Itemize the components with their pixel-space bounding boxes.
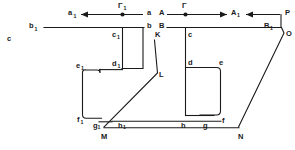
label-a1-subscript: 1 bbox=[74, 13, 77, 19]
label-M: M bbox=[101, 132, 107, 141]
label-gamma1: Γ bbox=[118, 1, 123, 10]
label-a1: a bbox=[68, 8, 73, 17]
label-g: g bbox=[203, 121, 208, 130]
label-L: L bbox=[159, 70, 164, 79]
label-h: h bbox=[181, 121, 186, 130]
gamma-point bbox=[183, 12, 187, 16]
label-b: b bbox=[147, 21, 152, 30]
label-d1: d bbox=[112, 59, 117, 68]
diagram-canvas: A1 arrow line --> bbox=[0, 0, 295, 150]
shape-right-rounded bbox=[186, 68, 221, 116]
label-d1-subscript: 1 bbox=[118, 63, 121, 69]
diagram-svg: A1 arrow line --> bbox=[0, 0, 295, 150]
label-h1-subscript: 1 bbox=[123, 124, 126, 130]
label-f1-subscript: 1 bbox=[81, 119, 84, 125]
label-c: c bbox=[188, 30, 192, 39]
label-e1-subscript: 1 bbox=[81, 65, 84, 71]
line-d1-horizontal bbox=[122, 28, 143, 69]
label-e: e bbox=[219, 58, 223, 67]
gamma1-point bbox=[120, 12, 124, 16]
label-gamma1-subscript: 1 bbox=[124, 5, 127, 11]
label-P: P bbox=[285, 8, 290, 17]
label-N: N bbox=[238, 132, 243, 141]
label-c-free: c bbox=[7, 34, 11, 43]
label-K: K bbox=[155, 30, 161, 39]
shape-left-rounded bbox=[83, 69, 102, 118]
label-g1-subscript: 1 bbox=[98, 124, 101, 130]
arrow-to-a1 bbox=[81, 12, 143, 18]
label-O: O bbox=[286, 29, 292, 38]
label-gamma: Γ bbox=[182, 1, 187, 10]
line-O-to-N bbox=[239, 28, 285, 128]
line-K-L-M bbox=[104, 40, 158, 127]
label-a: a bbox=[147, 8, 152, 17]
label-b1: b bbox=[29, 21, 34, 30]
label-A: A bbox=[159, 8, 165, 17]
label-B1-subscript: 1 bbox=[270, 25, 273, 31]
arrow-to-A1 bbox=[167, 12, 227, 18]
label-c1: c bbox=[112, 30, 116, 39]
label-e1: e bbox=[76, 61, 80, 70]
label-f: f bbox=[222, 116, 225, 125]
label-B: B bbox=[159, 21, 165, 30]
label-b1-subscript: 1 bbox=[35, 26, 38, 32]
arrow-from-P bbox=[246, 12, 280, 18]
label-c1-subscript: 1 bbox=[117, 34, 120, 40]
label-A1-subscript: 1 bbox=[237, 12, 240, 18]
label-d: d bbox=[188, 58, 193, 67]
